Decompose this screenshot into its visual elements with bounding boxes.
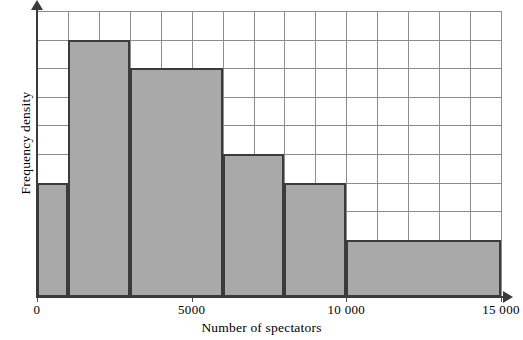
x-axis-line: [37, 296, 508, 298]
x-axis-tick-label: 5000: [178, 303, 205, 317]
gridline-vertical: [501, 11, 502, 297]
y-axis-line: [36, 6, 38, 298]
histogram-bar: [68, 40, 130, 297]
histogram-bar: [37, 183, 68, 297]
histogram-bar: [130, 68, 223, 297]
x-axis-tick-label: 15 000: [482, 303, 520, 317]
gridline-horizontal: [37, 11, 501, 12]
histogram-bar: [223, 154, 285, 297]
histogram-figure: 0500010 00015 000 Number of spectators F…: [0, 0, 523, 340]
histogram-bar: [284, 183, 346, 297]
y-axis-title: Frequency density: [18, 73, 34, 213]
y-axis-arrow-icon: [31, 0, 43, 10]
x-axis-tick-label: 10 000: [328, 303, 366, 317]
x-axis-tick-label: 0: [34, 303, 41, 317]
x-axis-title: Number of spectators: [0, 320, 523, 336]
histogram-bar: [346, 240, 501, 297]
plot-area: [37, 11, 501, 297]
